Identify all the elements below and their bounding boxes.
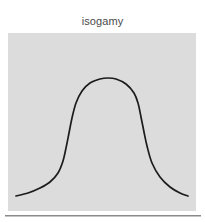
chart-title: isogamy [0,14,205,28]
plot-panel [8,33,196,211]
distribution-curve [16,78,188,196]
bottom-divider-highlight [5,216,201,217]
plot-svg [8,33,196,211]
figure-container: isogamy [0,0,205,222]
